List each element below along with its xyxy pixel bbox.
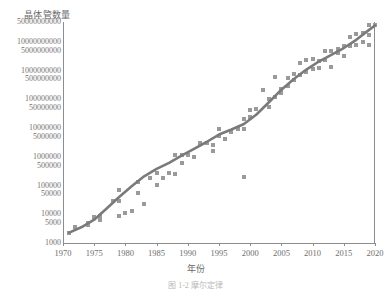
- y-tick-label: 1000: [45, 239, 61, 247]
- y-tick-label: 500000: [37, 162, 61, 170]
- y-tick-label: 5000000000: [21, 47, 61, 55]
- y-tick-label: 1000000: [33, 153, 61, 161]
- x-tick-label: 1985: [148, 248, 165, 258]
- y-tick-label: 5000: [45, 219, 61, 227]
- x-axis-title: 年份: [0, 262, 391, 275]
- y-tick-label: 50000000000: [17, 18, 61, 26]
- x-tick-label: 1975: [86, 248, 103, 258]
- x-tick-label: 2015: [335, 248, 352, 258]
- y-axis-ticklabels: 5000000000010000000000500000000010000000…: [0, 0, 61, 289]
- y-tick-label: 50000: [41, 190, 61, 198]
- figure-caption: 图 1-2 摩尔定律: [0, 279, 391, 290]
- x-tick-label: 2020: [367, 248, 384, 258]
- x-tick-label: 1970: [55, 248, 72, 258]
- x-tick-label: 1980: [117, 248, 134, 258]
- x-tick-label: 1995: [211, 248, 228, 258]
- y-tick-label: 500000000: [25, 75, 61, 83]
- x-tick-label: 1990: [179, 248, 196, 258]
- y-tick-label: 50000000: [29, 104, 61, 112]
- x-tick-label: 2000: [242, 248, 259, 258]
- x-tick-label: 2010: [304, 248, 321, 258]
- y-tick-label: 5000000: [33, 133, 61, 141]
- trend-line: [63, 22, 379, 247]
- y-tick-label: 10000000: [29, 124, 61, 132]
- y-tick-label: 10000000000: [17, 38, 61, 46]
- x-tick-label: 2005: [273, 248, 290, 258]
